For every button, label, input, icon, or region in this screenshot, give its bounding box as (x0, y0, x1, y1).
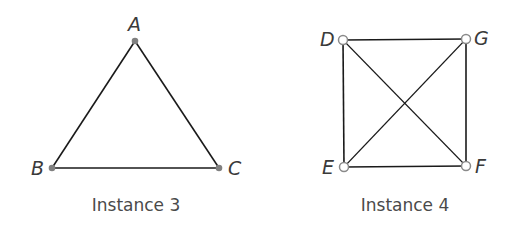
edge-d-e (343, 40, 344, 167)
edge-a-c (135, 41, 219, 168)
vertex-a (132, 38, 139, 45)
instance-3-graph: A B C Instance 3 (31, 13, 242, 215)
caption-instance-4: Instance 4 (361, 195, 450, 215)
vertex-f (462, 162, 471, 171)
vertex-c (216, 165, 223, 172)
edge-a-b (52, 41, 135, 168)
vertex-g (462, 35, 471, 44)
edge-e-f (344, 166, 466, 167)
graph-instances-figure: A B C Instance 3 D G E F Instance 4 (0, 0, 514, 226)
vertex-e (340, 163, 349, 172)
edge-d-g (343, 39, 466, 40)
vertex-d (339, 36, 348, 45)
vertex-label-e: E (322, 156, 334, 178)
vertex-label-b: B (31, 157, 44, 179)
vertex-label-c: C (228, 157, 242, 179)
caption-instance-3: Instance 3 (92, 195, 181, 215)
vertex-b (49, 165, 56, 172)
vertex-label-d: D (320, 28, 335, 50)
vertex-label-f: F (475, 155, 487, 177)
instance-4-graph: D G E F Instance 4 (320, 27, 489, 215)
vertex-label-a: A (126, 13, 141, 35)
vertex-label-g: G (474, 27, 489, 49)
